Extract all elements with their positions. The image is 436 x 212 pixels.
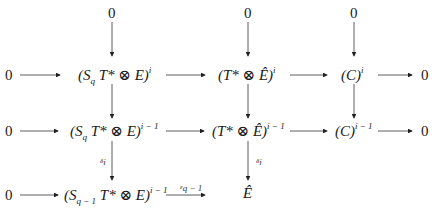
- zero-top-col1: 0: [108, 6, 116, 21]
- node-SqT-E-i: (Sq T* ⊗ E)i: [78, 68, 151, 83]
- node-T-Ehat-i: (T* ⊗ Ê)i: [218, 68, 276, 83]
- zero-row2-left: 0: [5, 124, 13, 139]
- node-C-i-1: (C)i − 1: [335, 124, 373, 139]
- node-Sq-1T-E-i-1: (Sq − 1 T* ⊗ E)i − 1: [64, 188, 167, 203]
- zero-row1-right: 0: [421, 68, 429, 83]
- node-Ehat: Ê: [243, 186, 252, 201]
- zero-row3-left: 0: [5, 188, 13, 203]
- label-delta-right: δi: [256, 157, 262, 165]
- node-T-Ehat-i-1: (T* ⊗ Ê)i − 1: [212, 124, 285, 139]
- zero-row2-right: 0: [421, 124, 429, 139]
- zero-top-col3: 0: [350, 6, 358, 21]
- label-delta-left: δi: [100, 157, 106, 165]
- zero-row1-left: 0: [5, 68, 13, 83]
- label-epsilon: εq − 1: [180, 183, 202, 191]
- node-SqT-E-i-1: (Sq T* ⊗ E)i − 1: [70, 124, 158, 139]
- node-C-i: (C)i: [341, 68, 364, 83]
- arrows-layer: [0, 0, 436, 212]
- zero-top-col2: 0: [244, 6, 252, 21]
